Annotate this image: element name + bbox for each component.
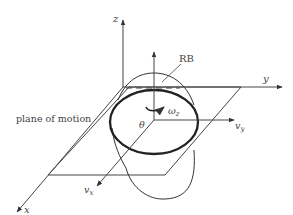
rigid-body-diagram: z y x RB plane of motion θ ωz vy vx xyxy=(0,0,293,215)
x-axis-label: x xyxy=(24,204,30,215)
vx-label: vx xyxy=(84,184,93,197)
omega-label: ωz xyxy=(168,105,180,118)
y-axis-label: y xyxy=(262,73,269,84)
x-axis xyxy=(17,87,123,212)
omega-rotation-arrow xyxy=(146,107,164,111)
theta-label: θ xyxy=(139,119,145,130)
rb-leader-line xyxy=(162,64,181,82)
vy-label: vy xyxy=(235,120,245,133)
plane-of-motion-label: plane of motion xyxy=(16,113,91,124)
z-axis-label: z xyxy=(112,13,119,24)
rb-label: RB xyxy=(179,53,194,64)
